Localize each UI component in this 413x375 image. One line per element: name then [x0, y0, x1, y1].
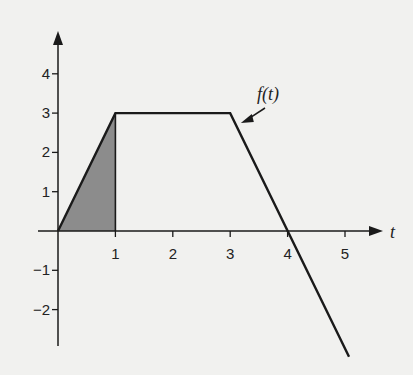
chart-canvas: 12345−2−11234 f(t) t	[0, 0, 413, 375]
y-tick-label: 3	[42, 104, 50, 121]
x-tick-label: 1	[111, 245, 119, 262]
y-tick-label: 2	[42, 143, 50, 160]
annotation-arrowhead-icon	[241, 114, 254, 123]
y-axis-arrow-icon	[53, 31, 63, 45]
y-tick-label: −2	[33, 301, 50, 318]
annotation: f(t) t	[241, 84, 396, 242]
x-tick-label: 3	[226, 245, 234, 262]
y-tick-label: −1	[33, 261, 50, 278]
x-axis-arrow-icon	[369, 226, 383, 236]
x-tick-label: 5	[341, 245, 349, 262]
curve-label: f(t)	[257, 84, 279, 105]
x-axis-label: t	[390, 222, 396, 242]
y-tick-label: 1	[42, 183, 50, 200]
y-tick-label: 4	[42, 65, 50, 82]
x-tick-label: 4	[283, 245, 291, 262]
x-tick-label: 2	[169, 245, 177, 262]
